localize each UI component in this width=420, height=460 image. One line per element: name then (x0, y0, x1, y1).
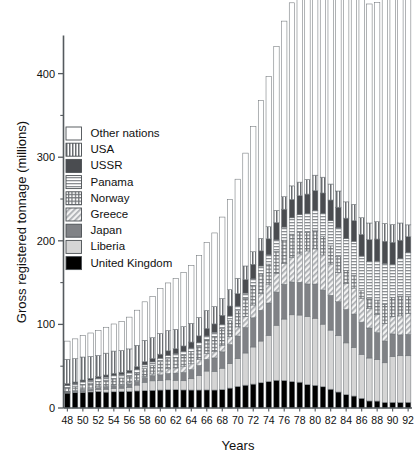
bar-segment (142, 368, 147, 376)
bar-segment (196, 343, 201, 347)
bar-segment (142, 340, 147, 361)
bar-segment (374, 314, 379, 332)
bar-segment (390, 0, 395, 225)
x-tick-label: 48 (62, 414, 74, 426)
bar-segment (243, 280, 248, 294)
bar-segment (312, 284, 317, 318)
bar-segment (119, 392, 124, 408)
bar-segment (189, 390, 194, 408)
legend-swatch (66, 143, 82, 156)
bar-segment (235, 336, 240, 359)
bar-segment (274, 240, 279, 251)
bar-segment (189, 266, 194, 324)
bar-segment (204, 336, 209, 340)
bar-segment (282, 319, 287, 380)
bar-segment (282, 197, 287, 210)
bar-segment (343, 395, 348, 408)
bar-segment (72, 384, 77, 387)
y-tick-label: 200 (37, 235, 55, 247)
bar-segment (189, 379, 194, 390)
bar-segment (119, 350, 124, 372)
bar-segment (96, 376, 101, 378)
bar-segment (65, 393, 70, 408)
bar-segment (359, 398, 364, 408)
bar-segment (111, 379, 116, 385)
bar-segment (297, 215, 302, 232)
bar-segment (165, 390, 170, 408)
bar-segment (103, 380, 108, 386)
x-tick-label: 84 (340, 414, 352, 426)
bar-segment (297, 382, 302, 408)
bar-segment (158, 390, 163, 408)
bar-segment (251, 384, 256, 408)
bar-segment (196, 336, 201, 343)
bar-group (243, 153, 248, 408)
bar-group (111, 324, 116, 408)
bar-segment (212, 324, 217, 332)
bar-group (165, 283, 170, 408)
bar-segment (274, 273, 279, 292)
bar-segment (305, 385, 310, 408)
bar-segment (382, 323, 387, 341)
bar-segment (181, 346, 186, 352)
bar-segment (158, 289, 163, 334)
bar-segment (367, 328, 372, 358)
bar-segment (127, 391, 132, 408)
bar-segment (320, 193, 325, 213)
bar-group (289, 3, 294, 408)
bar-segment (150, 376, 155, 381)
bar-segment (320, 255, 325, 290)
bar-segment (367, 262, 372, 299)
bar-segment (305, 251, 310, 284)
bar-segment (336, 392, 341, 408)
bar-segment (405, 225, 410, 237)
bar-segment (235, 359, 240, 387)
bar-segment (251, 264, 256, 279)
bar-segment (220, 352, 225, 368)
x-tick-label: 56 (123, 414, 135, 426)
bar-segment (196, 375, 201, 390)
chart-figure: 0100200300400485052545658606264666870727… (0, 0, 420, 460)
bar-segment (220, 217, 225, 299)
bar-segment (398, 259, 403, 297)
bar-group (305, 0, 310, 408)
bar-segment (274, 210, 279, 222)
y-tick-label: 100 (37, 318, 55, 330)
bar-segment (351, 0, 356, 204)
bar-segment (351, 396, 356, 408)
bar-segment (336, 228, 341, 257)
bar-segment (150, 381, 155, 390)
bar-segment (165, 331, 170, 351)
bar-segment (189, 364, 194, 370)
bar-segment (173, 390, 178, 408)
bar-segment (204, 340, 209, 353)
bar-segment (103, 353, 108, 375)
bar-segment (220, 329, 225, 345)
bar-segment (227, 364, 232, 388)
bar-segment (181, 355, 186, 366)
bar-segment (312, 231, 317, 249)
x-axis-title: Years (222, 438, 255, 453)
bar-segment (204, 310, 209, 328)
bar-segment (328, 264, 333, 295)
bar-segment (382, 363, 387, 403)
bar-segment (336, 207, 341, 228)
bar-segment (382, 264, 387, 305)
bar-segment (158, 354, 163, 358)
x-tick-label: 66 (201, 414, 213, 426)
bar-segment (65, 388, 70, 392)
bar-segment (390, 242, 395, 264)
bar-segment (343, 202, 348, 218)
bar-segment (305, 214, 310, 233)
bar-segment (173, 373, 178, 380)
bar-group (88, 333, 93, 408)
bar-segment (336, 336, 341, 393)
bar-segment (173, 354, 178, 358)
bar-segment (398, 223, 403, 240)
bar-segment (405, 253, 410, 297)
bar-segment (297, 282, 302, 315)
bar-segment (251, 279, 256, 286)
bar-segment (220, 345, 225, 352)
bar-group (103, 327, 108, 408)
bar-segment (88, 392, 93, 408)
